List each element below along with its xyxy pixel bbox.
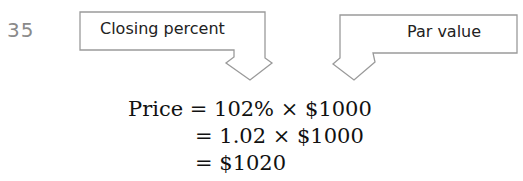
equation-line-2: = 1.02 × $1000	[195, 123, 364, 150]
equation-line-3: = $1020	[195, 150, 286, 177]
equation-line-1: Price = 102% × $1000	[128, 96, 372, 123]
equation-lhs: Price	[128, 97, 183, 121]
closing-percent-label: Closing percent	[100, 19, 225, 38]
par-value-label: Par value	[407, 22, 481, 41]
